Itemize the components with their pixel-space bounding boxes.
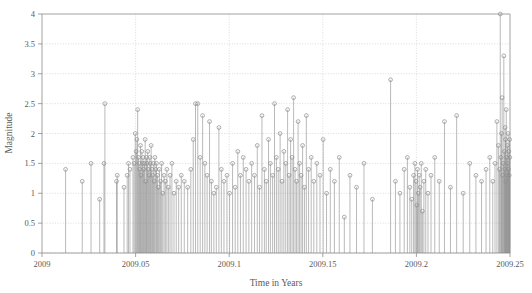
y-tick-label: 2.5 (24, 99, 35, 109)
y-tick-label: 0 (31, 248, 35, 258)
y-tick-label: 1.5 (24, 158, 35, 168)
y-axis-title: Magnitude (4, 112, 14, 153)
earthquake-magnitude-figure: 20092009.052009.12009.152009.22009.25 00… (0, 0, 532, 293)
y-tick-label: 4 (31, 9, 36, 19)
y-tick-label: 3 (31, 69, 35, 79)
x-tick-label: 2009 (34, 259, 51, 269)
grid-lines (42, 14, 510, 253)
x-tick-label: 2009.05 (122, 259, 150, 269)
x-tick-label: 2009.15 (309, 259, 337, 269)
x-tick-labels: 20092009.052009.12009.152009.22009.25 (34, 259, 524, 269)
x-tick-label: 2009.25 (496, 259, 524, 269)
y-tick-label: 1 (31, 188, 35, 198)
y-tick-label: 3.5 (24, 39, 35, 49)
y-tick-label: 2 (31, 129, 35, 139)
x-tick-label: 2009.1 (218, 259, 241, 269)
magnitude-time-plot: 20092009.052009.12009.152009.22009.25 00… (0, 0, 532, 293)
x-tick-label: 2009.2 (405, 259, 428, 269)
y-tick-label: 0.5 (24, 218, 35, 228)
y-tick-labels: 00.511.522.533.54 (24, 9, 35, 258)
x-axis-title: Time in Years (250, 278, 303, 288)
